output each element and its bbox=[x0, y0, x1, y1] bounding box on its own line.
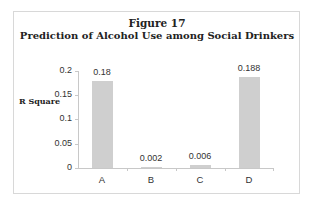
bar-a bbox=[92, 81, 113, 168]
x-tick bbox=[127, 168, 128, 171]
x-label-b: B bbox=[136, 174, 166, 185]
x-label-c: C bbox=[185, 174, 215, 185]
y-tick-label: 0.1 bbox=[42, 113, 72, 123]
bar-d bbox=[239, 77, 260, 168]
chart-subtitle: Prediction of Alcohol Use among Social D… bbox=[0, 30, 314, 41]
data-label-d: 0.188 bbox=[229, 63, 269, 73]
x-tick bbox=[176, 168, 177, 171]
chart-title: Figure 17 bbox=[0, 17, 314, 29]
x-tick bbox=[273, 168, 274, 171]
y-tick bbox=[75, 119, 78, 120]
y-tick bbox=[75, 95, 78, 96]
y-tick bbox=[75, 168, 78, 169]
y-tick-label: 0 bbox=[42, 162, 72, 172]
y-tick-label: 0.05 bbox=[42, 138, 72, 148]
data-label-b: 0.002 bbox=[131, 153, 171, 163]
data-label-c: 0.006 bbox=[180, 151, 220, 161]
x-tick bbox=[225, 168, 226, 171]
y-axis bbox=[78, 71, 79, 168]
data-label-a: 0.18 bbox=[82, 67, 122, 77]
y-tick-label: 0.15 bbox=[42, 89, 72, 99]
bar-b bbox=[141, 167, 162, 168]
x-label-a: A bbox=[87, 174, 117, 185]
x-label-d: D bbox=[234, 174, 264, 185]
y-tick bbox=[75, 71, 78, 72]
y-tick-label: 0.2 bbox=[42, 65, 72, 75]
y-tick bbox=[75, 144, 78, 145]
bar-c bbox=[190, 165, 211, 168]
